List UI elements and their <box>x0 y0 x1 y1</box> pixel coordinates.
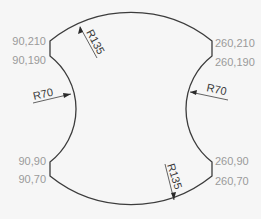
arrowhead-icon <box>190 90 197 95</box>
dimension-r70-left: R70 <box>32 86 71 103</box>
vertex-label-tr1: 260,210 <box>215 37 255 49</box>
vertex-label-br1: 260,90 <box>215 155 249 167</box>
vertex-label-bl2: 90,70 <box>18 173 46 185</box>
vertex-label-br2: 260,70 <box>215 175 249 187</box>
vertex-label-tl2: 90,190 <box>12 54 46 66</box>
dimension-r70-right: R70 <box>190 81 228 100</box>
dimension-label-r70-right: R70 <box>206 81 228 97</box>
arrowhead-icon <box>78 26 83 34</box>
arrowhead-icon <box>63 93 71 98</box>
vertex-label-tl1: 90,210 <box>12 35 46 47</box>
technical-drawing: 90,210 90,190 90,90 90,70 260,210 260,19… <box>0 0 261 219</box>
dimension-label-r70-left: R70 <box>32 86 54 102</box>
vertex-label-bl1: 90,90 <box>18 155 46 167</box>
shape-outline <box>50 12 212 204</box>
dimension-r135-top: R135 <box>78 26 107 58</box>
vertex-label-tr2: 260,190 <box>215 56 255 68</box>
